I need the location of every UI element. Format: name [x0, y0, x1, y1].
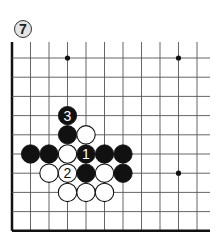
white-stone [95, 183, 113, 201]
white-stone [58, 145, 76, 163]
white-stone [40, 164, 58, 182]
black-stone [21, 145, 39, 163]
stones: 312 [21, 106, 132, 201]
go-board: 312 [0, 0, 220, 244]
black-stone: 1 [77, 145, 95, 163]
black-stone: 3 [58, 106, 76, 124]
star-point-icon [176, 55, 181, 60]
star-point-icon [65, 55, 70, 60]
white-stone [77, 183, 95, 201]
star-point-icon [176, 171, 181, 176]
black-stone [95, 145, 113, 163]
move-number-label: 1 [82, 146, 90, 162]
black-stone [58, 126, 76, 144]
white-stone: 2 [58, 164, 76, 182]
move-number-label: 3 [64, 108, 72, 124]
black-stone [114, 164, 132, 182]
white-stone [58, 183, 76, 201]
black-stone [40, 145, 58, 163]
black-stone [114, 145, 132, 163]
white-stone [95, 164, 113, 182]
move-number-label: 2 [64, 165, 72, 181]
board-grid [12, 42, 210, 231]
white-stone [77, 126, 95, 144]
black-stone [77, 164, 95, 182]
